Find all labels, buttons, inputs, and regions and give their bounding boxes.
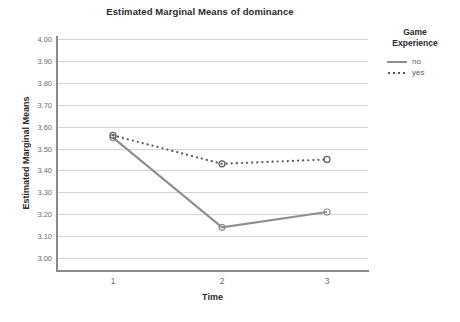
legend-title: Game Experience bbox=[378, 27, 452, 49]
series-line-no bbox=[113, 138, 327, 228]
legend-item-no[interactable]: no bbox=[378, 56, 458, 67]
series-line-yes bbox=[113, 135, 327, 163]
chart-title: Estimated Marginal Means of dominance bbox=[0, 6, 400, 17]
y-tick-label: 3.60 bbox=[26, 122, 52, 131]
y-axis-tick-labels: 4.003.903.803.703.603.503.403.303.203.10… bbox=[22, 0, 52, 322]
x-axis-line bbox=[56, 270, 369, 272]
y-tick-label: 3.20 bbox=[26, 210, 52, 219]
series-layer bbox=[57, 39, 368, 258]
legend-swatch-solid-icon bbox=[386, 57, 408, 67]
data-point-marker bbox=[324, 156, 330, 162]
x-tick-label: 2 bbox=[207, 276, 237, 286]
y-tick-label: 3.30 bbox=[26, 188, 52, 197]
y-tick-label: 3.00 bbox=[26, 254, 52, 263]
chart-container: Estimated Marginal Means of dominance Es… bbox=[0, 0, 460, 322]
y-tick-label: 3.70 bbox=[26, 100, 52, 109]
legend-label: yes bbox=[412, 68, 424, 77]
y-tick-label: 3.10 bbox=[26, 232, 52, 241]
y-tick-label: 3.40 bbox=[26, 166, 52, 175]
y-axis-line bbox=[56, 36, 58, 272]
legend-title-line-2: Experience bbox=[378, 38, 452, 49]
y-tick-label: 3.50 bbox=[26, 144, 52, 153]
legend-label: no bbox=[412, 57, 421, 66]
legend-swatch-dotted-icon bbox=[386, 68, 408, 78]
x-tick-label: 3 bbox=[312, 276, 342, 286]
y-tick-label: 3.80 bbox=[26, 78, 52, 87]
legend-item-yes[interactable]: yes bbox=[378, 67, 458, 78]
gridline bbox=[57, 258, 368, 259]
y-tick-label: 3.90 bbox=[26, 56, 52, 65]
plot-area bbox=[57, 39, 368, 258]
legend: Game Experience noyes bbox=[378, 27, 458, 78]
x-axis-title: Time bbox=[56, 292, 369, 302]
y-tick-label: 4.00 bbox=[26, 35, 52, 44]
legend-items: noyes bbox=[378, 56, 458, 78]
legend-title-line-1: Game bbox=[378, 27, 452, 38]
x-tick-label: 1 bbox=[98, 276, 128, 286]
